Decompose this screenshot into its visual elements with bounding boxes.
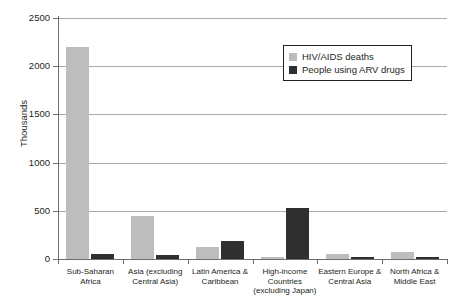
- bar: [416, 257, 439, 259]
- x-axis-label: North Africa &Middle East: [376, 267, 449, 286]
- x-tick-mark: [317, 259, 318, 264]
- chart-legend: HIV/AIDS deaths People using ARV drugs: [283, 45, 412, 81]
- y-tick-label: 2500: [8, 13, 50, 23]
- x-axis-label-line: North Africa &: [376, 267, 449, 277]
- x-tick-mark: [447, 259, 448, 264]
- bar-chart: Thousands 05001000150020002500 Sub-Sahar…: [0, 0, 449, 307]
- bar: [156, 255, 179, 259]
- legend-item-arv: People using ARV drugs: [289, 63, 405, 76]
- y-tick-label: 2000: [8, 61, 50, 71]
- y-tick-label: 1500: [8, 109, 50, 119]
- bar: [286, 208, 309, 259]
- bar: [131, 216, 154, 259]
- bar: [391, 252, 414, 259]
- x-tick-mark: [58, 259, 59, 264]
- x-tick-mark: [188, 259, 189, 264]
- y-tick-label: 1000: [8, 158, 50, 168]
- bar: [196, 247, 219, 259]
- x-tick-mark: [382, 259, 383, 264]
- legend-item-deaths: HIV/AIDS deaths: [289, 50, 405, 63]
- legend-swatch-arv: [289, 66, 297, 74]
- x-tick-mark: [253, 259, 254, 264]
- bar: [326, 254, 349, 259]
- bar: [221, 241, 244, 259]
- legend-label-arv: People using ARV drugs: [302, 65, 405, 75]
- y-tick-label: 500: [8, 206, 50, 216]
- bar: [91, 254, 114, 259]
- x-tick-mark: [123, 259, 124, 264]
- x-axis-label-line: (excluding Japan): [247, 286, 324, 296]
- y-tick-label: 0: [8, 254, 50, 264]
- bar: [261, 257, 284, 259]
- bar: [66, 47, 89, 259]
- bar: [351, 257, 374, 259]
- legend-swatch-deaths: [289, 53, 297, 61]
- y-axis-title: Thousands: [18, 79, 29, 169]
- x-axis-label-line: Middle East: [376, 277, 449, 287]
- legend-label-deaths: HIV/AIDS deaths: [302, 52, 374, 62]
